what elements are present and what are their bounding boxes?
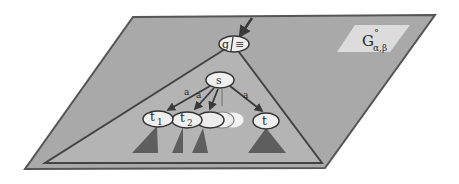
root-node-left-label: g: [222, 38, 229, 51]
plane-label-superscript: °: [374, 27, 379, 38]
plane-label-subscript: α,β: [373, 43, 387, 53]
edge-label-s-t2: a: [196, 90, 202, 100]
node-t-label: t: [262, 114, 267, 128]
root-node-right-label: ≡: [235, 38, 244, 51]
node-t2-subscript: 2: [187, 118, 193, 128]
edge-label-s-t: a: [243, 90, 249, 100]
edge-label-s-t1: a: [184, 87, 190, 97]
node-t1-label: t: [150, 110, 155, 124]
node-t1-subscript: 1: [157, 117, 163, 127]
diagram: G ° α,β g ≡ a a a s t 2 t 1 t: [0, 0, 459, 184]
node-t2-label: t: [180, 111, 185, 125]
node-s-label: s: [216, 74, 222, 87]
